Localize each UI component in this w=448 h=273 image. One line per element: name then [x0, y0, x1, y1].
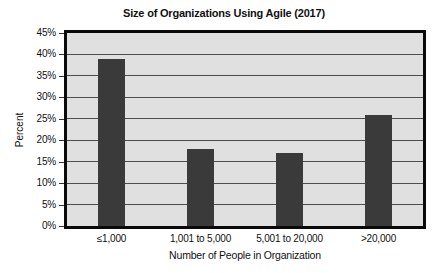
y-tick-label: 30%: [4, 92, 56, 102]
y-tick-label: 40%: [4, 49, 56, 59]
y-tick-mark: [59, 162, 64, 163]
y-tick-label: 5%: [4, 200, 56, 210]
y-tick-mark: [59, 76, 64, 77]
y-tick-label: 45%: [4, 28, 56, 38]
gridline: [67, 54, 423, 55]
y-tick-mark: [59, 54, 64, 55]
y-tick-mark: [59, 119, 64, 120]
x-tick-label: >20,000: [324, 233, 434, 244]
y-tick-mark: [59, 33, 64, 34]
y-tick-mark: [59, 140, 64, 141]
y-tick-label: 25%: [4, 114, 56, 124]
bar-4: [365, 115, 392, 227]
chart-title: Size of Organizations Using Agile (2017): [0, 7, 448, 19]
plot-area: [64, 30, 426, 229]
y-tick-mark: [59, 183, 64, 184]
bar-1: [98, 59, 125, 226]
agile-org-size-bar-chart: Size of Organizations Using Agile (2017)…: [0, 0, 448, 273]
y-tick-mark: [59, 226, 64, 227]
bar-3: [276, 153, 303, 226]
y-tick-label: 20%: [4, 135, 56, 145]
y-tick-label: 15%: [4, 157, 56, 167]
y-tick-label: 35%: [4, 71, 56, 81]
y-tick-label: 10%: [4, 178, 56, 188]
y-tick-label: 0%: [4, 221, 56, 231]
y-tick-mark: [59, 205, 64, 206]
x-axis-title: Number of People in Organization: [64, 249, 426, 261]
y-tick-mark: [59, 97, 64, 98]
bar-2: [187, 149, 214, 226]
